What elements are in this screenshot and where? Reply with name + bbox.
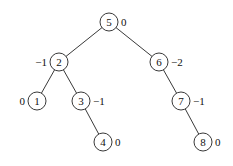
edge-3-4 xyxy=(85,109,98,134)
tree-node-1: 10 xyxy=(20,92,47,110)
edge-2-1 xyxy=(41,70,54,93)
balance-factor: 0 xyxy=(215,136,221,148)
balance-factor: −1 xyxy=(193,95,205,107)
balance-factor: −1 xyxy=(35,56,47,68)
edge-7-8 xyxy=(185,109,198,134)
node-key: 7 xyxy=(178,95,184,107)
balance-factor: 0 xyxy=(20,95,26,107)
tree-node-3: 3−1 xyxy=(72,92,105,110)
balance-factor: 0 xyxy=(121,16,127,28)
edge-5-6 xyxy=(116,28,152,57)
binary-tree-diagram: 502−16−2103−17−14080 xyxy=(0,0,233,166)
node-key: 8 xyxy=(200,136,206,148)
tree-node-6: 6−2 xyxy=(150,53,183,71)
tree-node-2: 2−1 xyxy=(35,53,68,71)
tree-node-5: 50 xyxy=(100,13,127,31)
nodes: 502−16−2103−17−14080 xyxy=(20,13,222,151)
balance-factor: −2 xyxy=(171,56,183,68)
tree-node-4: 40 xyxy=(94,133,121,151)
node-key: 1 xyxy=(34,95,40,107)
edge-2-3 xyxy=(63,70,76,93)
balance-factor: 0 xyxy=(115,136,121,148)
tree-node-7: 7−1 xyxy=(172,92,205,110)
node-key: 5 xyxy=(106,16,112,28)
node-key: 3 xyxy=(78,95,84,107)
node-key: 6 xyxy=(156,56,162,68)
node-key: 2 xyxy=(56,56,62,68)
edge-5-2 xyxy=(66,28,102,57)
edges xyxy=(41,28,198,134)
edge-6-7 xyxy=(163,70,176,93)
balance-factor: −1 xyxy=(93,95,105,107)
tree-node-8: 80 xyxy=(194,133,221,151)
node-key: 4 xyxy=(100,136,106,148)
